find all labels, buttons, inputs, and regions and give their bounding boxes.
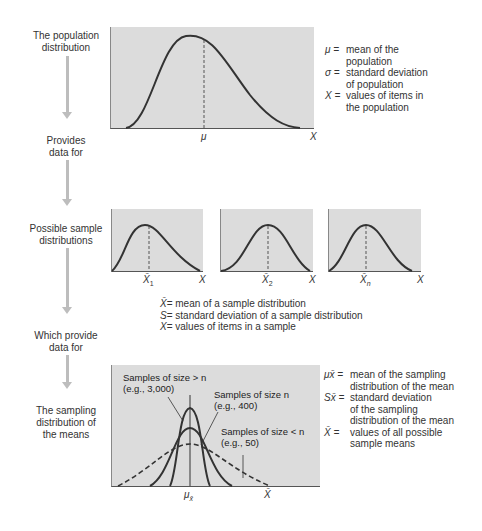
legend-symbol: X bbox=[160, 321, 167, 333]
legend-text: = mean of a sample distribution bbox=[167, 298, 306, 310]
label-large-samples: Samples of size > n(e.g., 3,000) bbox=[123, 372, 206, 394]
legend-symbol: X = bbox=[325, 90, 346, 102]
legend-text: mean of the sampling bbox=[350, 369, 446, 381]
pointer-medium bbox=[201, 412, 218, 445]
curve-small-samples bbox=[118, 444, 270, 486]
legend-text: distribution of the mean bbox=[350, 415, 454, 427]
population-legend: μ =mean of the population σ =standard de… bbox=[325, 44, 428, 113]
legend-symbol: X̄ bbox=[160, 298, 167, 310]
sampling-legend: μx̄ =mean of the sampling distribution o… bbox=[324, 369, 454, 450]
legend-symbol: μ = bbox=[325, 44, 346, 56]
sampling-mean-label: μx̄ bbox=[184, 489, 193, 502]
pointer-large bbox=[168, 397, 183, 421]
sample-legend: X̄ = mean of a sample distribution S = s… bbox=[160, 298, 363, 333]
legend-text: population bbox=[346, 56, 392, 68]
legend-symbol: σ = bbox=[325, 67, 346, 79]
sample-axis-label-1: X bbox=[199, 274, 206, 285]
legend-symbol: μx̄ = bbox=[324, 369, 350, 381]
sample-curve-1 bbox=[112, 225, 200, 271]
sample-axis-label-n: X bbox=[417, 274, 424, 285]
population-mean-label: μ bbox=[201, 131, 206, 142]
legend-text: distribution of the mean bbox=[350, 381, 454, 393]
sampling-axis-label: X̄ bbox=[264, 489, 271, 500]
label-medium-samples: Samples of size n(e.g., 400) bbox=[214, 389, 289, 411]
legend-text: = standard deviation of a sample distrib… bbox=[167, 310, 363, 322]
legend-text: values of all possible bbox=[350, 427, 442, 439]
sample-curve-2 bbox=[221, 225, 310, 271]
legend-symbol: X̄ = bbox=[324, 427, 350, 439]
sample-axis-label-2: X bbox=[309, 274, 316, 285]
label-small-samples: Samples of size < n(e.g., 50) bbox=[221, 426, 304, 448]
legend-text: sample means bbox=[350, 438, 415, 450]
legend-text: = values of items in a sample bbox=[167, 321, 296, 333]
sample-mean-label-2: X̄2 bbox=[262, 274, 273, 287]
population-curve bbox=[126, 36, 300, 128]
legend-text: values of items in bbox=[346, 90, 423, 102]
legend-text: standard deviation bbox=[346, 67, 428, 79]
legend-text: mean of the bbox=[346, 44, 399, 56]
sample-mean-label-n: X̄n bbox=[360, 274, 371, 287]
legend-text: of the sampling bbox=[350, 404, 418, 416]
legend-symbol: S bbox=[160, 310, 167, 322]
sample-mean-label-1: X̄1 bbox=[143, 274, 154, 287]
population-axis-label: X bbox=[310, 131, 317, 142]
legend-symbol: Sx̄ = bbox=[324, 392, 350, 404]
legend-text: standard deviation bbox=[350, 392, 432, 404]
legend-text: of population bbox=[346, 79, 403, 91]
sample-curve-n bbox=[329, 225, 412, 271]
legend-text: the population bbox=[346, 102, 409, 114]
